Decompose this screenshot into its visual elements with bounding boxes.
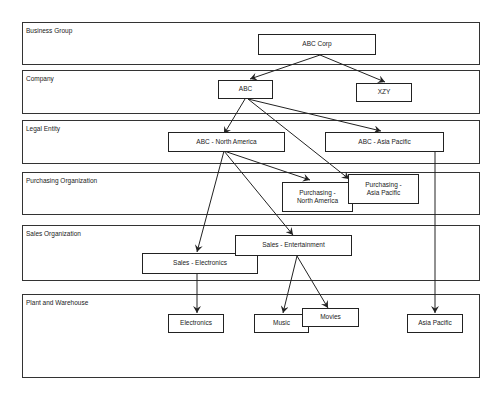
- node-abc-asia-pacific[interactable]: ABC - Asia Pacific: [325, 132, 444, 152]
- node-electronics[interactable]: Electronics: [168, 314, 224, 333]
- lane-label: Company: [26, 75, 54, 82]
- node-music[interactable]: Music: [254, 314, 309, 333]
- node-xzy[interactable]: XZY: [356, 83, 412, 102]
- node-abc-corp[interactable]: ABC Corp: [258, 34, 376, 55]
- lane-label: Purchasing Organization: [26, 177, 97, 184]
- node-purchasing-north-america[interactable]: Purchasing - North America: [282, 182, 353, 212]
- node-sales-electronics[interactable]: Sales - Electronics: [142, 253, 258, 274]
- node-abc-north-america[interactable]: ABC - North America: [168, 132, 285, 152]
- lane-business-group: Business Group: [22, 22, 480, 65]
- node-asia-pacific[interactable]: Asia Pacific: [407, 314, 463, 333]
- lane-label: Business Group: [26, 27, 72, 34]
- lane-plant-and-warehouse: Plant and Warehouse: [22, 294, 480, 378]
- node-movies[interactable]: Movies: [302, 308, 359, 327]
- node-sales-entertainment[interactable]: Sales - Entertainment: [235, 235, 352, 256]
- lane-label: Plant and Warehouse: [26, 299, 88, 306]
- lane-label: Legal Entity: [26, 125, 60, 132]
- node-abc[interactable]: ABC: [218, 80, 273, 99]
- node-purchasing-asia-pacific[interactable]: Purchasing - Asia Pacific: [348, 174, 419, 204]
- lane-label: Sales Organization: [26, 230, 81, 237]
